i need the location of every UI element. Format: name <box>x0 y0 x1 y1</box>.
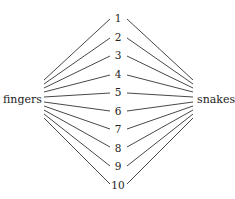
right-edges <box>127 19 193 184</box>
middle-node-8: 8 <box>115 142 122 154</box>
right-node-label: snakes <box>197 93 235 106</box>
edge-fingers-9 <box>44 114 110 166</box>
middle-node-9: 9 <box>115 160 122 172</box>
middle-node-5: 5 <box>115 86 122 98</box>
edge-fingers-1 <box>44 19 110 80</box>
edge-5-snakes <box>127 93 193 97</box>
left-node-label: fingers <box>3 93 42 106</box>
middle-node-1: 1 <box>115 12 122 24</box>
edge-fingers-10 <box>44 118 110 184</box>
edge-fingers-5 <box>44 93 110 97</box>
edge-10-snakes <box>127 118 193 184</box>
edge-9-snakes <box>127 114 193 166</box>
middle-nodes: 1 2 3 4 5 6 7 8 9 10 <box>111 12 124 191</box>
middle-node-3: 3 <box>115 49 122 61</box>
edge-1-snakes <box>127 19 193 80</box>
middle-node-4: 4 <box>115 68 122 80</box>
middle-node-10: 10 <box>111 179 124 191</box>
middle-node-6: 6 <box>115 105 122 117</box>
middle-node-2: 2 <box>115 31 122 43</box>
middle-node-7: 7 <box>115 123 122 135</box>
bipartite-diagram: fingers snakes 1 2 3 4 5 6 7 8 9 10 <box>0 0 235 199</box>
left-edges <box>44 19 110 184</box>
